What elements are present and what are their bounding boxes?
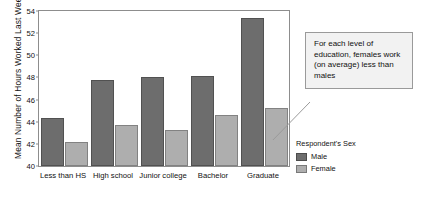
annotation-callout-text: For each level of education, females wor… <box>314 39 400 80</box>
bar-male <box>191 76 214 166</box>
bar-group <box>189 11 239 166</box>
legend-label: Male <box>311 152 327 161</box>
bar-group <box>239 11 289 166</box>
legend-swatch-male <box>296 153 307 161</box>
x-axis-label: Graduate <box>238 171 288 180</box>
bar-male <box>91 80 114 166</box>
bar-male <box>41 118 64 166</box>
bar-male <box>141 77 164 166</box>
bar-chart: Mean Number of Hours Worked Last Week 40… <box>0 0 425 197</box>
y-axis-title: Mean Number of Hours Worked Last Week <box>13 0 23 159</box>
x-axis-label: High school <box>88 171 138 180</box>
bar-female <box>65 142 88 166</box>
legend-item: Male <box>296 152 356 161</box>
bar-female <box>265 108 288 166</box>
legend-title: Respondent's Sex <box>296 139 356 148</box>
legend-swatch-female <box>296 165 307 173</box>
bars-layer <box>39 11 289 166</box>
bar-group <box>139 11 189 166</box>
bar-female <box>215 115 238 166</box>
legend-label: Female <box>311 164 336 173</box>
x-axis-label: Bachelor <box>188 171 238 180</box>
bar-female <box>115 125 138 166</box>
bar-male <box>241 18 264 166</box>
x-axis-label: Junior college <box>138 171 188 180</box>
x-axis-label: Less than HS <box>38 171 88 180</box>
plot-area: 4042444648505254 <box>38 10 290 167</box>
legend-item: Female <box>296 164 356 173</box>
annotation-callout: For each level of education, females wor… <box>305 32 413 89</box>
bar-group <box>39 11 89 166</box>
legend-items: MaleFemale <box>296 152 356 173</box>
legend: Respondent's Sex MaleFemale <box>296 139 356 176</box>
bar-group <box>89 11 139 166</box>
bar-female <box>165 130 188 166</box>
